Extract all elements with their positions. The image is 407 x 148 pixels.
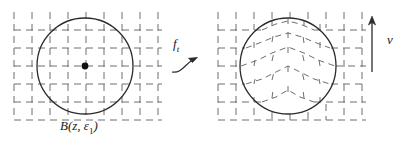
v-vector-label: v — [387, 32, 393, 48]
caption-ball-letter: B — [60, 118, 68, 133]
figure-canvas: B(z, ε1) ft v — [0, 0, 407, 148]
map-label-subscript: t — [177, 44, 180, 54]
ball-caption: B(z, ε1) — [60, 118, 98, 136]
ball-center-point — [82, 63, 89, 70]
caption-close-paren: ) — [93, 118, 97, 133]
map-label: ft — [173, 36, 179, 54]
